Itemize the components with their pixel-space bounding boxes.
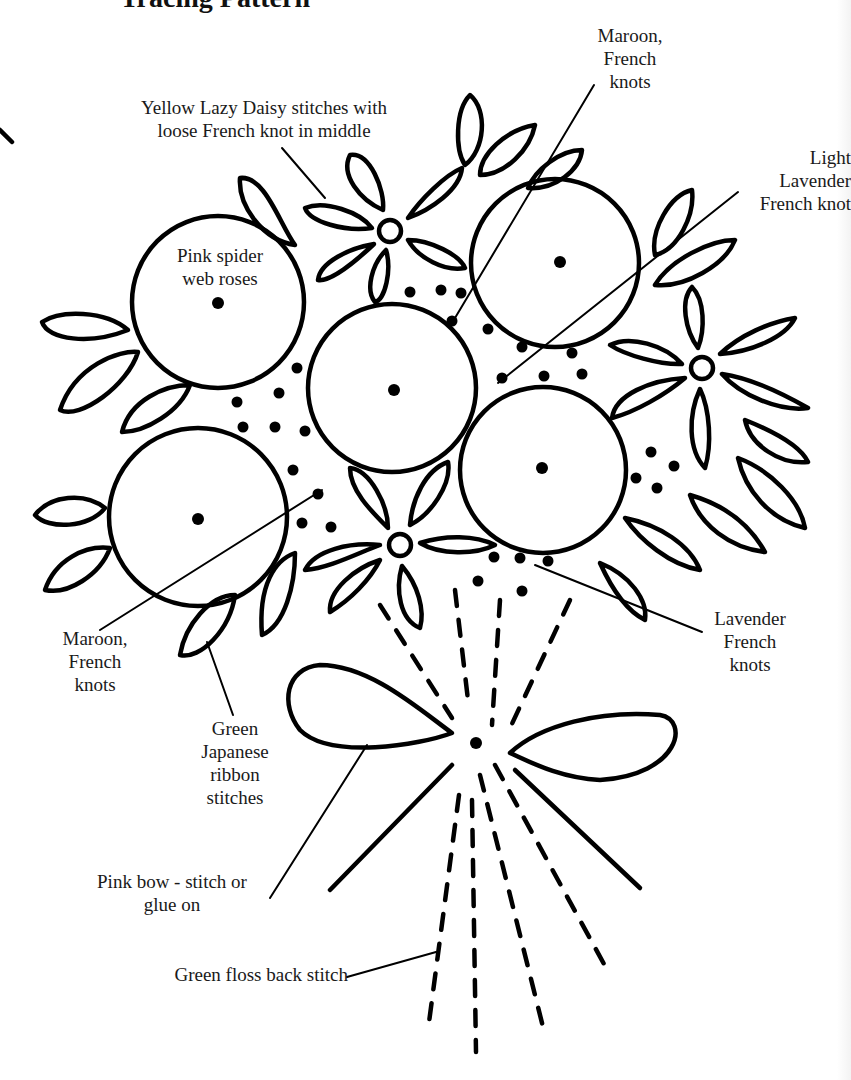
edge-mark <box>0 130 12 142</box>
page-title: Tracing Pattern <box>120 0 310 14</box>
label-green-japanese-ribbon: Green Japanese ribbon stitches <box>180 717 290 809</box>
label-lavender-french-knots: Lavender French knots <box>695 607 805 676</box>
lazy-daisy-top <box>305 155 465 302</box>
lazy-daisy-bottom <box>305 462 495 628</box>
label-pink-spider-web-roses: Pink spider web roses <box>155 244 285 290</box>
label-yellow-lazy-daisy: Yellow Lazy Daisy stitches with loose Fr… <box>108 96 420 142</box>
label-maroon-french-knots-top: Maroon, French knots <box>585 24 675 93</box>
label-maroon-french-knots-bottom: Maroon, French knots <box>40 627 150 696</box>
label-pink-bow: Pink bow - stitch or glue on <box>62 870 282 916</box>
bouquet-drawing <box>0 0 851 1080</box>
label-green-floss-back-stitch: Green floss back stitch <box>118 963 348 986</box>
label-light-lavender-french-knot: Light Lavender French knot <box>735 146 851 215</box>
tracing-pattern-diagram: Tracing Pattern <box>0 0 851 1080</box>
green-floss-stems <box>380 590 610 1052</box>
lazy-daisy-right <box>610 287 808 468</box>
